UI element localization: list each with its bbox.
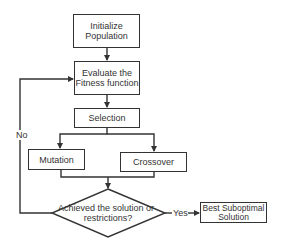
selection-node: Selection [74,108,140,128]
arrow-selection-to-crossover [107,134,154,151]
node-text: Evaluate the [75,68,138,78]
no-label: No [15,130,29,140]
node-text: Mutation [39,155,74,165]
node-text: Selection [88,113,125,123]
initialize-population-node: InitializePopulation [73,14,140,48]
mutation-node: Mutation [28,149,85,170]
node-text: Achieved the solution or [54,203,158,213]
node-text: Initialize [85,21,128,31]
crossover-node: Crossover [120,152,187,172]
decision-text: Achieved the solution or restrictions? [58,203,158,223]
arrow-selection-to-mutation [60,127,107,148]
node-text: Solution [203,213,265,222]
arrow-no-loop [20,79,73,213]
yes-label: Yes [173,208,188,218]
node-text: Fitness function [75,78,138,88]
evaluate-fitness-node: Evaluate theFitness function [74,61,140,95]
node-text: Crossover [133,157,174,167]
node-text: restrictions? [58,213,158,223]
best-suboptimal-solution-node: Best SuboptimalSolution [200,202,267,223]
node-text: Population [85,31,128,41]
